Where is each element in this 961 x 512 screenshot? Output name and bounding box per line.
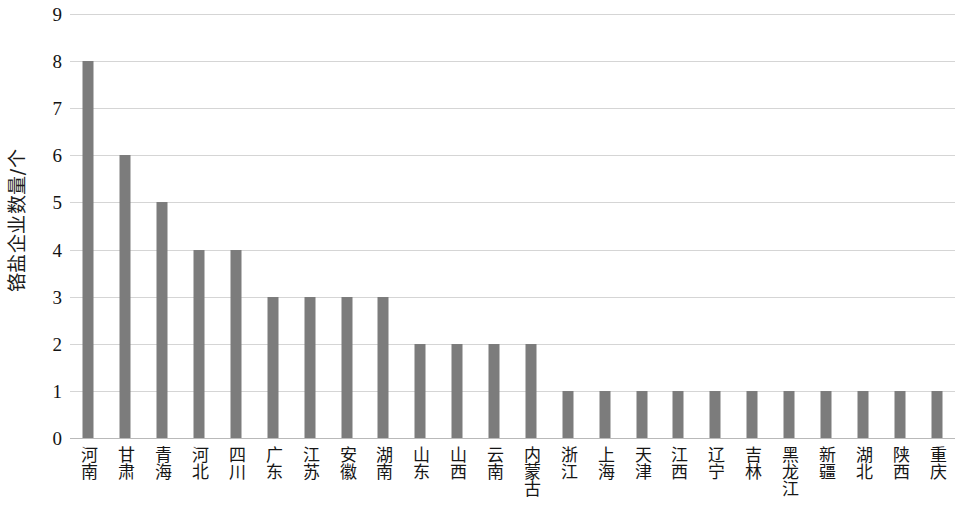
y-axis-title: 铬盐企业数量/个 [0, 0, 32, 440]
y-axis-tick-label: 1 [38, 381, 62, 400]
bar [784, 391, 795, 438]
y-axis-tick-label: 3 [38, 287, 62, 306]
gridline [70, 61, 955, 62]
gridline [70, 14, 955, 15]
x-axis-tick-label: 湖南 [375, 446, 392, 480]
x-axis-tick-label: 河北 [191, 446, 208, 480]
bar [83, 61, 94, 438]
x-axis-tick-label: 云南 [486, 446, 503, 480]
x-axis-tick-label: 四川 [227, 446, 244, 480]
x-axis-tick-label: 江苏 [301, 446, 318, 480]
y-axis-tick-label: 0 [38, 429, 62, 448]
bar [452, 344, 463, 438]
x-axis-tick-label: 上海 [596, 446, 613, 480]
bar [489, 344, 500, 438]
x-axis-tick-label: 山西 [449, 446, 466, 480]
y-axis-tick-label: 6 [38, 146, 62, 165]
y-axis-tick-label: 9 [38, 5, 62, 24]
bar [120, 155, 131, 438]
bar [415, 344, 426, 438]
y-axis-tick-label: 8 [38, 52, 62, 71]
x-axis-tick-label: 青海 [154, 446, 171, 480]
y-axis-tick-labels: 0123456789 [36, 14, 62, 438]
x-axis-tick-labels: 河南甘肃青海河北四川广东江苏安徽湖南山东山西云南内蒙古浙江上海天津江西辽宁吉林黑… [70, 438, 955, 512]
gridline [70, 155, 955, 156]
plot-area [70, 14, 955, 438]
bar [857, 391, 868, 438]
bar [525, 344, 536, 438]
bar [599, 391, 610, 438]
bar [820, 391, 831, 438]
x-axis-tick-label: 辽宁 [707, 446, 724, 480]
bar-chart: 铬盐企业数量/个 0123456789 河南甘肃青海河北四川广东江苏安徽湖南山东… [0, 0, 961, 512]
y-axis-title-label: 铬盐企业数量/个 [3, 148, 30, 291]
x-axis-tick-label: 重庆 [928, 446, 945, 480]
y-axis-tick-label: 4 [38, 240, 62, 259]
bar [267, 297, 278, 438]
bar [894, 391, 905, 438]
bar [378, 297, 389, 438]
gridline [70, 202, 955, 203]
bar [710, 391, 721, 438]
bar [341, 297, 352, 438]
bar [304, 297, 315, 438]
x-axis-tick-label: 安徽 [338, 446, 355, 480]
gridline [70, 108, 955, 109]
bar [562, 391, 573, 438]
x-axis-tick-label: 湖北 [854, 446, 871, 480]
bar [157, 202, 168, 438]
y-axis-tick-label: 7 [38, 99, 62, 118]
y-axis-tick-label: 2 [38, 334, 62, 353]
x-axis-tick-label: 黑龙江 [781, 446, 798, 497]
x-axis-tick-label: 河南 [80, 446, 97, 480]
bar [747, 391, 758, 438]
x-axis-tick-label: 陕西 [891, 446, 908, 480]
x-axis-tick-label: 江西 [670, 446, 687, 480]
x-axis-tick-label: 天津 [633, 446, 650, 480]
bar [931, 391, 942, 438]
x-axis-tick-label: 新疆 [817, 446, 834, 480]
bar [636, 391, 647, 438]
bar [194, 250, 205, 438]
x-axis-tick-label: 甘肃 [117, 446, 134, 480]
x-axis-tick-label: 浙江 [559, 446, 576, 480]
x-axis-tick-label: 广东 [264, 446, 281, 480]
x-axis-tick-label: 吉林 [744, 446, 761, 480]
y-axis-tick-label: 5 [38, 193, 62, 212]
x-axis-tick-label: 内蒙古 [522, 446, 539, 497]
x-axis-tick-label: 山东 [412, 446, 429, 480]
bar [673, 391, 684, 438]
bar [230, 250, 241, 438]
